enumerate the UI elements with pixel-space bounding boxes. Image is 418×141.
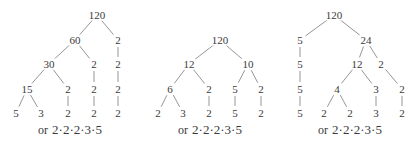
- factor-node: 5: [296, 108, 304, 119]
- factor-node: 2: [114, 35, 122, 46]
- factor-node: 2: [114, 59, 122, 70]
- branch-line: [306, 19, 329, 36]
- branch-line: [79, 45, 89, 58]
- branch-line: [359, 47, 363, 58]
- branch-line: [340, 19, 361, 35]
- branch-line: [32, 69, 45, 83]
- product-expression: 2·2·2·3·5: [332, 122, 382, 137]
- tree-edges: [0, 0, 418, 141]
- factor-node: 2: [320, 108, 328, 119]
- factor-node: 3: [179, 108, 187, 119]
- branch-line: [327, 95, 333, 107]
- factor-node: 4: [333, 84, 341, 95]
- factor-node: 2: [90, 59, 98, 70]
- branch-line: [225, 45, 242, 60]
- branch-line: [161, 95, 167, 106]
- tree-root-node: 120: [325, 10, 344, 21]
- prime-factorization-summary: or2·2·2·3·5: [178, 123, 242, 137]
- factor-node: 5: [12, 108, 20, 119]
- factor-node: 24: [360, 35, 373, 46]
- branch-line: [31, 95, 38, 107]
- factor-node: 30: [43, 59, 56, 70]
- branch-line: [251, 70, 258, 83]
- factor-tree-2-edges: [161, 44, 261, 107]
- factor-node: 2: [377, 59, 385, 70]
- branch-line: [174, 70, 185, 84]
- factor-node: 5: [231, 108, 239, 119]
- prime-factorization-summary: or2·2·2·3·5: [318, 123, 382, 137]
- factor-node: 5: [296, 59, 304, 70]
- factor-node: 3: [372, 108, 380, 119]
- factor-node: 2: [398, 108, 406, 119]
- factor-node: 2: [257, 84, 265, 95]
- factor-node: 15: [21, 84, 34, 95]
- factor-node: 2: [114, 108, 122, 119]
- branch-line: [386, 69, 398, 83]
- branch-line: [80, 20, 93, 34]
- tree-root-node: 120: [211, 35, 230, 46]
- branch-line: [193, 69, 204, 83]
- factor-node: 2: [64, 84, 72, 95]
- factor-node: 10: [242, 59, 255, 70]
- factor-node: 2: [398, 84, 406, 95]
- factor-node: 5: [296, 84, 304, 95]
- product-expression: 2·2·2·3·5: [192, 122, 242, 137]
- factor-node: 3: [372, 84, 380, 95]
- factor-node: 3: [37, 108, 45, 119]
- branch-line: [173, 95, 179, 107]
- factor-trees-figure: 12060230221522253222or2·2·2·3·5120121062…: [0, 0, 418, 141]
- branch-line: [340, 95, 346, 107]
- branch-line: [341, 69, 352, 83]
- factor-node: 2: [90, 108, 98, 119]
- factor-node: 5: [296, 35, 304, 46]
- branch-line: [54, 45, 70, 60]
- branch-line: [102, 20, 114, 34]
- factor-node: 2: [205, 108, 213, 119]
- or-label: or: [38, 123, 48, 137]
- factor-node: 2: [64, 108, 72, 119]
- branch-line: [238, 70, 245, 83]
- prime-factorization-summary: or2·2·2·3·5: [38, 123, 102, 137]
- factor-node: 5: [231, 84, 239, 95]
- tree-root-node: 120: [88, 10, 107, 21]
- factor-node: 60: [69, 35, 82, 46]
- factor-node: 2: [205, 84, 213, 95]
- branch-line: [370, 46, 378, 58]
- factor-node: 2: [90, 84, 98, 95]
- branch-line: [19, 95, 24, 106]
- product-expression: 2·2·2·3·5: [52, 122, 102, 137]
- branch-line: [53, 70, 64, 84]
- factor-node: 12: [183, 59, 196, 70]
- factor-node: 6: [166, 84, 174, 95]
- branch-line: [195, 44, 215, 59]
- factor-node: 12: [351, 59, 364, 70]
- factor-node: 2: [114, 84, 122, 95]
- or-label: or: [178, 123, 188, 137]
- factor-node: 2: [154, 108, 162, 119]
- factor-node: 2: [346, 108, 354, 119]
- branch-line: [361, 70, 372, 84]
- or-label: or: [318, 123, 328, 137]
- factor-node: 2: [257, 108, 265, 119]
